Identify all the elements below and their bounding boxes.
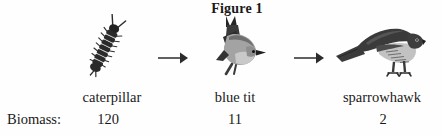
sparrowhawk-illustration <box>334 14 426 82</box>
biomass-value-caterpillar: 120 <box>78 110 138 128</box>
arrow-right-icon <box>292 49 326 67</box>
biomass-value-sparrowhawk: 2 <box>363 110 403 128</box>
biomass-row-label: Biomass: <box>7 110 61 128</box>
organism-label-sparrowhawk: sparrowhawk <box>324 88 440 106</box>
figure-container: Figure 1 <box>0 0 442 135</box>
caterpillar-illustration <box>72 14 144 82</box>
blue-tit-illustration <box>196 14 268 82</box>
arrow-right-icon <box>156 49 190 67</box>
organism-label-blue-tit: blue tit <box>198 88 272 106</box>
biomass-value-blue-tit: 11 <box>205 110 265 128</box>
organism-label-caterpillar: caterpillar <box>62 88 162 106</box>
